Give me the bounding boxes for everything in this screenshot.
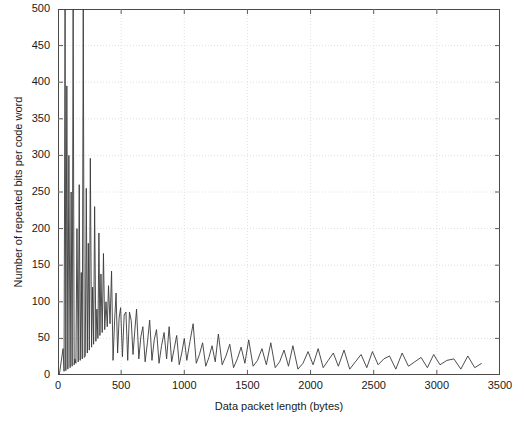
y-tick-label: 300: [4, 148, 50, 160]
y-tick-label: 400: [4, 75, 50, 87]
x-tick-label: 2000: [281, 379, 341, 391]
x-tick-label: 2500: [344, 379, 404, 391]
y-tick-label: 250: [4, 185, 50, 197]
x-tick-label: 1500: [217, 379, 277, 391]
y-tick-label: 50: [4, 331, 50, 343]
x-tick-label: 3000: [407, 379, 467, 391]
x-tick-label: 0: [28, 379, 88, 391]
x-tick-label: 3500: [470, 379, 524, 391]
y-tick-label: 100: [4, 295, 50, 307]
x-tick-label: 1000: [154, 379, 214, 391]
x-tick-label: 500: [91, 379, 151, 391]
y-axis-label: Number of repeated bits per code word: [12, 9, 26, 375]
y-tick-label: 200: [4, 222, 50, 234]
chart-svg: [58, 9, 500, 375]
figure-canvas: 050100150200250300350400450500 050010001…: [0, 0, 524, 430]
y-tick-label: 350: [4, 112, 50, 124]
y-tick-label: 450: [4, 39, 50, 51]
y-tick-label: 500: [4, 2, 50, 14]
plot-drawing-area: [58, 9, 500, 375]
y-tick-label: 150: [4, 258, 50, 270]
x-axis-label: Data packet length (bytes): [58, 400, 500, 412]
